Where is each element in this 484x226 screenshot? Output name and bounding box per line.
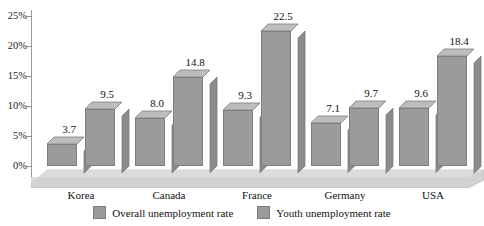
bar-usa-overall[interactable]: [399, 108, 429, 166]
y-tick-label: 15%: [8, 71, 27, 81]
x-category-label-germany: Germany: [305, 189, 385, 201]
y-tick-label: 0%: [13, 161, 27, 171]
bar-front-face: [135, 118, 165, 166]
legend-swatch-youth: [257, 206, 270, 219]
bar-front-face: [223, 110, 253, 166]
y-tick-label: 20%: [8, 41, 27, 51]
bar-germany-overall[interactable]: [311, 123, 341, 166]
y-tick-mark: [27, 166, 32, 167]
y-tick-mark: [27, 136, 32, 137]
bar-korea-overall[interactable]: [47, 144, 77, 166]
legend-item-youth[interactable]: Youth unemployment rate: [257, 206, 390, 219]
bar-front-face: [85, 109, 115, 166]
chart-container: 0%5%10%15%20%25% 3.79.58.014.89.322.57.1…: [0, 0, 484, 226]
bar-front-face: [261, 31, 291, 166]
bar-value-label: 8.0: [136, 98, 178, 109]
bar-value-label: 14.8: [174, 57, 216, 68]
chart-title: [0, 0, 484, 3]
legend-label-overall: Overall unemployment rate: [112, 207, 233, 219]
y-tick-mark: [27, 106, 32, 107]
bar-front-face: [47, 144, 77, 166]
y-tick-label: 5%: [13, 131, 27, 141]
bar-value-label: 18.4: [438, 36, 480, 47]
bar-canada-overall[interactable]: [135, 118, 165, 166]
y-tick-mark: [27, 16, 32, 17]
bar-front-face: [173, 77, 203, 166]
bar-value-label: 9.6: [400, 88, 442, 99]
y-tick-label: 25%: [8, 11, 27, 21]
bar-korea-youth[interactable]: [85, 109, 115, 166]
bar-value-label: 3.7: [48, 124, 90, 135]
y-tick-label: 10%: [8, 101, 27, 111]
legend-swatch-overall: [93, 206, 106, 219]
x-category-label-korea: Korea: [41, 189, 121, 201]
x-category-label-france: France: [217, 189, 297, 201]
bar-france-overall[interactable]: [223, 110, 253, 166]
bar-front-face: [399, 108, 429, 166]
bar-value-label: 9.3: [224, 90, 266, 101]
bar-front-face: [311, 123, 341, 166]
x-category-label-canada: Canada: [129, 189, 209, 201]
bar-front-face: [437, 56, 467, 166]
bar-front-face: [349, 108, 379, 166]
bar-france-youth[interactable]: [261, 31, 291, 166]
y-tick-mark: [27, 46, 32, 47]
legend-item-overall[interactable]: Overall unemployment rate: [93, 206, 233, 219]
bar-value-label: 7.1: [312, 103, 354, 114]
x-category-label-usa: USA: [393, 189, 473, 201]
bar-usa-youth[interactable]: [437, 56, 467, 166]
bar-germany-youth[interactable]: [349, 108, 379, 166]
bar-value-label: 22.5: [262, 11, 304, 22]
bar-value-label: 9.7: [350, 88, 392, 99]
chart-legend: Overall unemployment rate Youth unemploy…: [0, 206, 484, 219]
bar-value-label: 9.5: [86, 89, 128, 100]
legend-label-youth: Youth unemployment rate: [276, 207, 390, 219]
y-tick-mark: [27, 76, 32, 77]
y-axis: 0%5%10%15%20%25%: [0, 0, 30, 186]
bar-canada-youth[interactable]: [173, 77, 203, 166]
plot-area: 3.79.58.014.89.322.57.19.79.618.4: [31, 6, 484, 184]
